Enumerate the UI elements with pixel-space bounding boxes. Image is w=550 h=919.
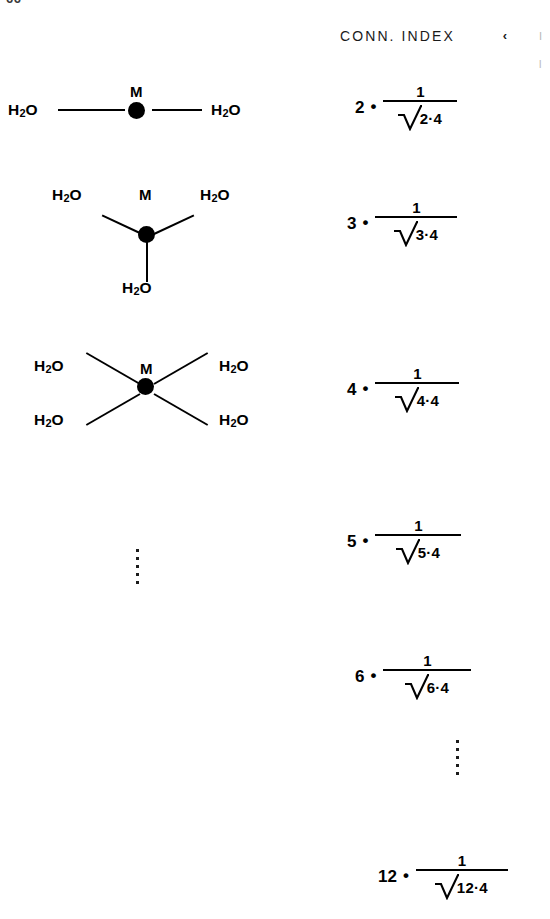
- square-root-icon: [404, 673, 429, 700]
- denominator: 4·4: [394, 384, 442, 413]
- denominator: 2·4: [397, 102, 445, 131]
- conn-index-row-3: 3 • 1 3·4: [347, 200, 457, 247]
- numerator: 1: [412, 200, 420, 216]
- ligand-label-h2o-lower-right: H2O: [219, 412, 249, 429]
- fraction-3: 1 3·4: [375, 200, 457, 247]
- fraction-4: 1 4·4: [375, 366, 459, 413]
- fraction-12: 1 12·4: [416, 853, 508, 900]
- bond-upper-left: [86, 352, 141, 385]
- ellipsis-dot: [136, 565, 139, 568]
- ellipsis-dot: [136, 573, 139, 576]
- conn-index-row-4: 4 • 1 4·4: [347, 366, 459, 413]
- bond-right: [152, 109, 202, 111]
- radicand: 4·4: [417, 393, 440, 408]
- ligand-label-h2o-right: H2O: [211, 102, 241, 119]
- ligand-label-h2o-lower-left: H2O: [34, 412, 64, 429]
- numerator: 1: [458, 853, 466, 869]
- bond-upper-right: [154, 352, 209, 385]
- ligand-label-h2o-upper-left: H2O: [34, 358, 64, 375]
- ligand-label-h2o-left: H2O: [8, 102, 38, 119]
- coefficient-12: 12: [378, 868, 397, 885]
- ellipsis-dot: [136, 581, 139, 584]
- fraction-6: 1 6·4: [383, 653, 471, 700]
- coefficient-6: 6: [355, 668, 364, 685]
- conn-index-row-6: 6 • 1 6·4: [355, 653, 471, 700]
- bond-lower-left: [86, 393, 141, 426]
- numerator: 1: [423, 653, 431, 669]
- multiplication-dot-icon: •: [362, 380, 368, 397]
- coefficient-2: 2: [355, 99, 364, 116]
- fraction-5: 1 5·4: [375, 518, 461, 565]
- fraction-2: 1 2·4: [383, 84, 457, 131]
- structures-continuation-ellipsis: [136, 549, 139, 584]
- radicand: 12·4: [457, 880, 488, 895]
- numerator: 1: [414, 518, 422, 534]
- multiplication-dot-icon: •: [403, 867, 409, 884]
- ellipsis-dot: [136, 557, 139, 560]
- square-root-icon: [397, 104, 422, 131]
- denominator: 3·4: [393, 218, 441, 247]
- conn-index-row-5: 5 • 1 5·4: [347, 518, 461, 565]
- ligand-label-h2o-bottom: H2O: [122, 280, 152, 297]
- numerator: 1: [416, 84, 424, 100]
- ellipsis-dot: [136, 549, 139, 552]
- radicand: 2·4: [420, 111, 443, 126]
- ellipsis-dot: [456, 772, 459, 775]
- radicand: 5·4: [418, 545, 441, 560]
- bond-upper-right: [154, 214, 195, 234]
- coefficient-5: 5: [347, 533, 356, 550]
- conn-index-row-12: 12 • 1 12·4: [378, 853, 508, 900]
- numerator: 1: [413, 366, 421, 382]
- bond-bottom: [146, 241, 148, 282]
- ellipsis-dot: [456, 748, 459, 751]
- edge-clipped-mark-lower: l: [539, 58, 544, 70]
- ellipsis-dot: [456, 764, 459, 767]
- multiplication-dot-icon: •: [362, 214, 368, 231]
- coefficient-4: 4: [347, 381, 356, 398]
- square-root-icon: [395, 538, 420, 565]
- square-root-icon: [434, 873, 459, 900]
- conn-index-header: CONN. INDEX: [340, 28, 455, 44]
- multiplication-dot-icon: •: [370, 98, 376, 115]
- multiplication-dot-icon: •: [370, 667, 376, 684]
- edge-clipped-caret-icon: ‹: [503, 28, 507, 43]
- structure-coord-4: H2O M H2O H2O H2O: [0, 298, 300, 458]
- bond-left: [58, 109, 125, 111]
- bond-upper-left: [102, 214, 143, 234]
- structure-coord-3: H2O M H2O H2O: [0, 170, 300, 295]
- page-number-fragment: 66: [6, 0, 21, 3]
- structure-coord-2: H2O M H2O: [0, 78, 300, 134]
- edge-clipped-mark-upper: I: [539, 30, 544, 42]
- denominator: 5·4: [395, 536, 443, 565]
- ligand-label-h2o-upper-left: H2O: [52, 187, 82, 204]
- radicand: 3·4: [416, 227, 439, 242]
- metal-center-label-M: M: [130, 84, 143, 99]
- coefficient-3: 3: [347, 215, 356, 232]
- ellipsis-dot: [456, 756, 459, 759]
- formulas-continuation-ellipsis: [456, 740, 459, 775]
- ligand-label-h2o-upper-right: H2O: [219, 358, 249, 375]
- denominator: 12·4: [434, 871, 490, 900]
- square-root-icon: [393, 220, 418, 247]
- metal-center-dot: [128, 102, 145, 119]
- bond-lower-right: [154, 393, 209, 426]
- multiplication-dot-icon: •: [362, 532, 368, 549]
- denominator: 6·4: [404, 671, 452, 700]
- metal-center-label-M: M: [140, 361, 153, 376]
- ellipsis-dot: [456, 740, 459, 743]
- conn-index-row-2: 2 • 1 2·4: [355, 84, 457, 131]
- radicand: 6·4: [427, 680, 450, 695]
- ligand-label-h2o-upper-right: H2O: [200, 187, 230, 204]
- square-root-icon: [394, 386, 419, 413]
- metal-center-label-M: M: [139, 187, 152, 202]
